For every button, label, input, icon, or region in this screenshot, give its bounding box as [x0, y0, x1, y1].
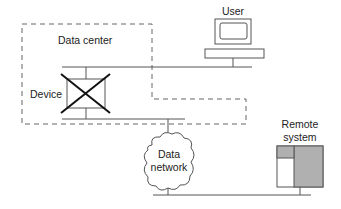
failed-device-icon — [61, 67, 110, 119]
user-label: User — [222, 5, 245, 17]
network-label-line1: Data — [158, 148, 180, 160]
data-center-label: Data center — [58, 34, 113, 46]
network-label-line2: network — [151, 161, 189, 173]
remote-system-icon — [277, 146, 323, 195]
remote-label-line1: Remote — [282, 118, 319, 130]
remote-label-line2: system — [283, 131, 317, 143]
data-center-boundary — [22, 24, 246, 124]
user-computer-icon — [205, 19, 264, 67]
network-diagram: Data center User Device Data network Rem… — [0, 0, 341, 209]
device-label: Device — [30, 88, 62, 100]
